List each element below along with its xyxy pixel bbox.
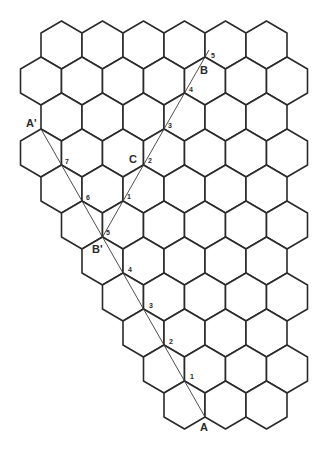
step-number-label: 4 xyxy=(189,86,193,93)
step-number-label: 7 xyxy=(65,158,69,165)
step-number-label: 4 xyxy=(128,266,132,273)
step-number-label: 3 xyxy=(149,302,153,309)
label-a: A xyxy=(200,421,208,433)
label-c: C xyxy=(129,153,137,165)
step-number-label: 2 xyxy=(169,338,173,345)
step-number-label: 5 xyxy=(106,229,110,236)
step-number-label: 1 xyxy=(190,373,194,380)
step-number-label: 6 xyxy=(86,194,90,201)
label-a-prime: A' xyxy=(26,117,37,129)
label-b-prime: B' xyxy=(92,243,103,255)
step-number-label: 5 xyxy=(211,52,215,59)
hex-grid-diagram: A A' B B' C 123456712345 xyxy=(0,0,327,450)
label-b: B xyxy=(200,64,208,76)
step-number-label: 3 xyxy=(168,122,172,129)
step-number-label: 1 xyxy=(127,193,131,200)
step-number-label: 2 xyxy=(148,157,152,164)
